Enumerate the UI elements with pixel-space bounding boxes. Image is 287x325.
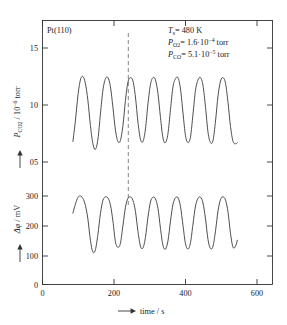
x-axis-title-label: time / s [140,307,164,316]
curve-co2-partial-pressure [73,76,237,149]
annot-value-PO2: = 1.6·10 [180,38,208,47]
sample-label: Pt(110) [47,26,72,35]
annot-unit-PCO: torr [216,50,230,59]
figure-container: 15 10 05 300 200 100 0 0 200 [0,0,287,325]
upper-axis-arrow-icon [17,150,22,168]
lower-ytick-label-300: 300 [26,192,38,201]
lower-ytick-label-0: 0 [34,281,38,290]
upper-y-axis-title: PCO2 / 10−6 torr [12,86,22,138]
annot-value-PCO: = 5.1·10 [181,50,209,59]
lower-axis-rest: / mV [13,205,22,224]
annotation-temperature: Ts= 480 K [168,26,202,36]
x-axis-title: time / s [118,307,164,316]
lower-ytick-label-200: 200 [26,222,38,231]
x-ticks [43,21,258,285]
annot-sub-CO: CO [173,54,181,60]
svg-text:Δφ / mV: Δφ / mV [13,205,22,234]
upper-ytick-label-10: 10 [30,101,38,110]
curve-work-function-change [73,196,237,253]
upper-axis-unit: torr [13,86,22,100]
lower-ytick-label-100: 100 [26,252,38,261]
annot-value-T: = 480 K [175,26,202,35]
upper-ytick-label-15: 15 [30,44,38,53]
upper-ytick-label-05: 05 [30,158,38,167]
lower-y-ticks [43,196,273,285]
svg-text:Ts= 480 K: Ts= 480 K [168,26,202,36]
annotation-oxygen-pressure: PO2= 1.6·10−4 torr [167,37,229,47]
lower-axis-symbol: Δφ [13,223,22,234]
xtick-label-0: 0 [40,289,44,298]
xtick-label-400: 400 [179,289,191,298]
xtick-label-600: 600 [251,289,263,298]
plot-frame [43,21,273,285]
svg-text:PCO= 5.1·10−5 torr: PCO= 5.1·10−5 torr [167,49,230,59]
lower-y-axis-title: Δφ / mV [13,205,22,234]
lower-axis-arrow-icon [17,244,22,262]
annotation-co-pressure: PCO= 5.1·10−5 torr [167,49,230,59]
upper-axis-sub: CO [17,124,23,132]
oscillation-chart: 15 10 05 300 200 100 0 0 200 [0,0,287,325]
upper-axis-rest: / 10 [13,107,22,122]
xtick-label-200: 200 [108,289,120,298]
annot-sub-O2: O2 [173,42,180,48]
annot-unit-PO2: torr [215,38,229,47]
svg-text:PO2= 1.6·10−4 torr: PO2= 1.6·10−4 torr [167,37,229,47]
svg-text:PCO2 / 10−6 torr: PCO2 / 10−6 torr [12,86,22,138]
